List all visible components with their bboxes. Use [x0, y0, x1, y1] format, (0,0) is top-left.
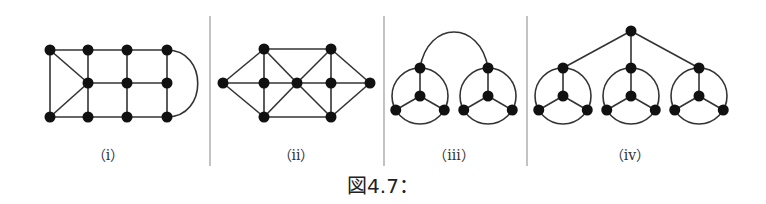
vertex [83, 78, 94, 89]
vertex [122, 45, 133, 56]
edge [331, 83, 370, 117]
vertex [483, 91, 494, 102]
vertex [326, 44, 337, 55]
graph-i [45, 45, 198, 123]
vertex [162, 45, 173, 56]
vertex [122, 112, 133, 123]
vertex [326, 78, 337, 89]
vertex [365, 78, 376, 89]
edge-to-root [563, 31, 631, 68]
vertex [558, 91, 569, 102]
vertex [650, 105, 661, 116]
vertex [415, 91, 426, 102]
vertex [218, 78, 229, 89]
vertex [669, 105, 680, 116]
vertex [122, 78, 133, 89]
edge-to-root [631, 31, 699, 68]
edge [50, 50, 88, 83]
figure-caption: 図4.7： [347, 174, 419, 198]
edge [297, 83, 331, 117]
graph-iv [533, 26, 728, 125]
wheel-subgraph [533, 63, 592, 125]
vertex [162, 112, 173, 123]
vertex [259, 44, 270, 55]
edge [264, 83, 297, 117]
vertex [83, 45, 94, 56]
vertex [626, 63, 637, 74]
wheel-subgraph [390, 63, 449, 125]
panel-label-ii: （ii） [278, 147, 315, 163]
vertex [390, 105, 401, 116]
vertex [582, 105, 593, 116]
edge-bridge [420, 32, 488, 68]
vertex [694, 63, 705, 74]
vertex [458, 105, 469, 116]
vertex [162, 78, 173, 89]
vertex [83, 112, 94, 123]
wheel-subgraph [601, 63, 660, 125]
vertex [558, 63, 569, 74]
edge [50, 83, 88, 117]
panel-label-iv: （iv） [610, 147, 650, 163]
edge [223, 83, 264, 117]
vertex [439, 105, 450, 116]
vertex [45, 112, 56, 123]
panel-label-iii: （iii） [433, 147, 474, 163]
vertex [326, 112, 337, 123]
graph-iii [390, 32, 517, 124]
edge [223, 49, 264, 83]
vertex [626, 26, 637, 37]
vertex [533, 105, 544, 116]
figure-4-7: （i） （ii） （iii） （iv） 図4.7： [0, 0, 766, 204]
edge [331, 49, 370, 83]
vertex [415, 63, 426, 74]
graph-ii [218, 44, 376, 123]
vertex [694, 91, 705, 102]
vertex [292, 78, 303, 89]
vertex [259, 112, 270, 123]
vertex [601, 105, 612, 116]
wheel-subgraph [669, 63, 728, 125]
vertex [259, 78, 270, 89]
wheel-subgraph [458, 63, 517, 125]
vertex [626, 91, 637, 102]
vertex [507, 105, 518, 116]
vertex [718, 105, 729, 116]
edge [264, 49, 297, 83]
vertex [45, 45, 56, 56]
edge [297, 49, 331, 83]
panel-label-i: （i） [92, 147, 124, 163]
vertex [483, 63, 494, 74]
